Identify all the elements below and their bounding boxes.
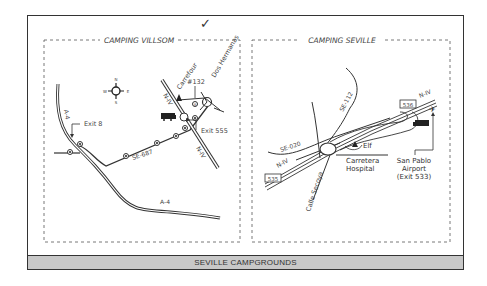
map-canvas: ✓ CAMPING VILLSOM N S W E A-4 A-4 Exit 8	[0, 0, 487, 286]
svg-text:8: 8	[194, 103, 196, 107]
svg-text:N-IV: N-IV	[418, 87, 433, 99]
svg-text:S: S	[115, 100, 118, 105]
svg-text:A-4: A-4	[160, 198, 170, 205]
svg-text:E: E	[127, 89, 130, 94]
svg-text:Exit 8: Exit 8	[84, 120, 103, 128]
map-caption: SEVILLE CAMPGROUNDS	[27, 255, 464, 270]
svg-text:W: W	[103, 89, 107, 94]
svg-text:N: N	[115, 77, 118, 82]
svg-text:Exit 555: Exit 555	[201, 127, 228, 135]
campground-rv-icon	[161, 113, 176, 121]
svg-text:#132: #132	[187, 78, 205, 86]
svg-text:Calle Secoya: Calle Secoya	[304, 170, 325, 212]
shop-triangle-icon	[176, 94, 182, 101]
svg-text:A-4: A-4	[63, 109, 72, 120]
svg-text:Hospital: Hospital	[346, 165, 375, 173]
svg-text:N-IV: N-IV	[275, 156, 290, 169]
panel-title: CAMPING SEVILLE	[308, 36, 376, 45]
panel-camping-villsom: CAMPING VILLSOM N S W E A-4 A-4 Exit 8	[44, 33, 241, 242]
panel-camping-seville: CAMPING SEVILLE SE-112 SE-020 N-IV N-IV …	[252, 36, 450, 242]
panel-title: CAMPING VILLSOM	[104, 36, 175, 45]
checkmark-icon: ✓	[200, 16, 211, 31]
svg-text:Carrefour: Carrefour	[175, 61, 199, 91]
svg-text:San Pablo: San Pablo	[397, 157, 431, 165]
svg-text:535: 535	[268, 176, 279, 182]
svg-text:(Exit 533): (Exit 533)	[397, 173, 432, 181]
svg-text:SE-687: SE-687	[131, 148, 154, 161]
svg-text:536: 536	[403, 102, 414, 108]
compass-rose-icon: N S W E	[103, 77, 130, 105]
svg-text:Airport: Airport	[402, 165, 426, 173]
svg-text:Carretera: Carretera	[346, 157, 379, 165]
airport-plane-icon: ✈	[429, 105, 436, 114]
campground-rv-icon	[413, 120, 429, 126]
svg-text:SE-112: SE-112	[338, 90, 354, 112]
svg-text:Elf: Elf	[363, 142, 372, 150]
road-n-iv	[162, 80, 218, 168]
